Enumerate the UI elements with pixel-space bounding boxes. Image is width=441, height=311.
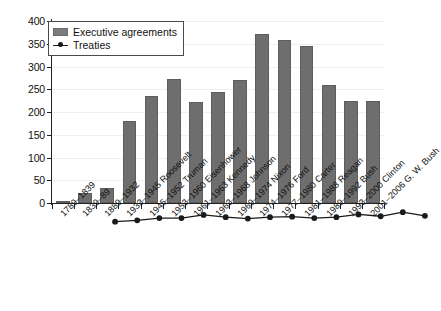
line-marker-icon	[53, 41, 68, 50]
legend-item-treaties: Treaties	[53, 39, 177, 51]
chart-legend: Executive agreements Treaties	[48, 21, 184, 56]
treaties-data-point	[422, 213, 428, 219]
legend-label: Executive agreements	[73, 27, 177, 38]
bar-swatch-icon	[53, 28, 68, 36]
treaties-data-point	[400, 209, 406, 215]
legend-item-executive-agreements: Executive agreements	[53, 26, 177, 38]
legend-label: Treaties	[73, 40, 111, 51]
